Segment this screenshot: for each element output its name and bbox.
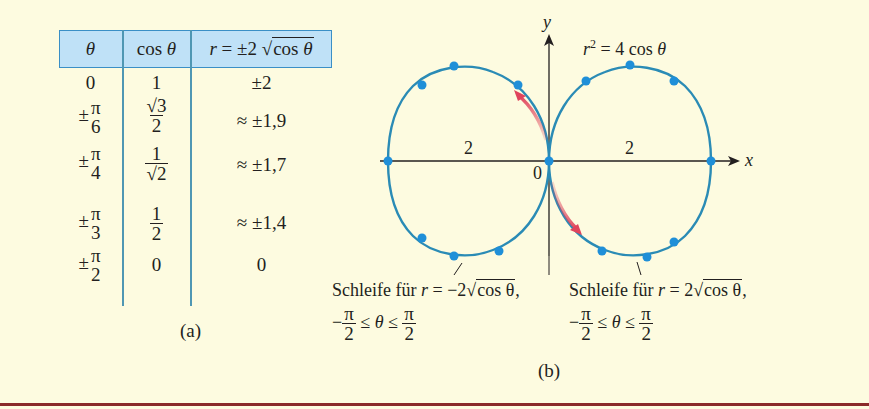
eq-r: r [583, 39, 590, 59]
label-suffix: , [515, 280, 520, 300]
minus: − [569, 312, 579, 332]
label-r: r [658, 280, 665, 300]
point-left [384, 157, 393, 166]
numerator: π [342, 304, 356, 323]
range-mid: ≤ θ ≤ [593, 312, 640, 332]
label-r: r [421, 280, 428, 300]
bottom-rule [0, 403, 869, 406]
fraction: π2 [639, 304, 653, 343]
range-mid: ≤ θ ≤ [356, 312, 403, 332]
label-rad: cos θ [476, 279, 515, 300]
point [670, 238, 679, 247]
point [514, 81, 523, 90]
label-prefix: Schleife für [569, 280, 658, 300]
label-eq: = −2 [428, 280, 466, 300]
point [418, 234, 427, 243]
label-suffix: , [742, 280, 747, 300]
equation-label: r2 = 4 cos θ [583, 37, 666, 60]
direction-arrow-down [552, 182, 577, 229]
right-tick-label: 2 [625, 138, 634, 159]
point [418, 81, 427, 90]
polar-graph [0, 0, 869, 409]
denominator: 2 [579, 323, 593, 343]
label-eq: = 2 [665, 280, 693, 300]
minus: − [332, 312, 342, 332]
fraction: π2 [579, 304, 593, 343]
origin-label: 0 [533, 163, 542, 184]
leader-line-right [637, 262, 641, 275]
point [643, 253, 652, 262]
left-loop-range: −π2 ≤ θ ≤ π2 [332, 304, 416, 343]
fraction: π2 [342, 304, 356, 343]
point [598, 247, 607, 256]
point [670, 77, 679, 86]
denominator: 2 [639, 323, 653, 343]
sqrt-sign: √cos θ [466, 280, 515, 301]
left-tick-label: 2 [464, 138, 473, 159]
numerator: π [402, 304, 416, 323]
denominator: 2 [402, 323, 416, 343]
point [582, 77, 591, 86]
left-loop-label: Schleife für r = −2√cos θ, [332, 280, 520, 301]
fraction: π2 [402, 304, 416, 343]
point [450, 62, 459, 71]
x-axis-label: x [745, 150, 753, 171]
label-prefix: Schleife für [332, 280, 421, 300]
point [626, 61, 635, 70]
point-origin [545, 157, 554, 166]
right-loop-label: Schleife für r = 2√cos θ, [569, 280, 747, 301]
eq-rest: = 4 cos [596, 39, 657, 59]
y-axis-label: y [543, 12, 551, 33]
x-axis [380, 156, 740, 166]
point-right [707, 157, 716, 166]
numerator: π [639, 304, 653, 323]
sqrt-sign: √cos θ [693, 280, 742, 301]
label-rad: cos θ [703, 279, 742, 300]
point [495, 247, 504, 256]
eq-theta: θ [657, 39, 666, 59]
leader-line-left [454, 263, 462, 275]
point [450, 252, 459, 261]
right-loop-range: −π2 ≤ θ ≤ π2 [569, 304, 653, 343]
numerator: π [579, 304, 593, 323]
denominator: 2 [342, 323, 356, 343]
caption-b: (b) [538, 360, 560, 382]
